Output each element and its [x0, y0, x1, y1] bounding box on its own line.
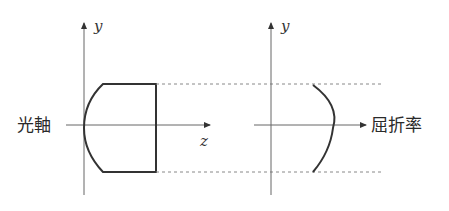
left-y-axis-label: y — [93, 17, 103, 35]
refractive-index-label: 屈折率 — [371, 115, 422, 135]
right-y-axis-label: y — [280, 17, 290, 35]
right-panel-index-profile: y 屈折率 — [254, 17, 422, 195]
z-axis-label: z — [199, 132, 208, 150]
lens-refractive-index-diagram: y z 光軸 y 屈折率 — [0, 0, 449, 211]
lens-outline — [84, 84, 156, 172]
left-panel-lens-shape: y z 光軸 — [17, 17, 383, 195]
optical-axis-label: 光軸 — [17, 115, 51, 135]
index-profile-curve — [313, 85, 334, 172]
